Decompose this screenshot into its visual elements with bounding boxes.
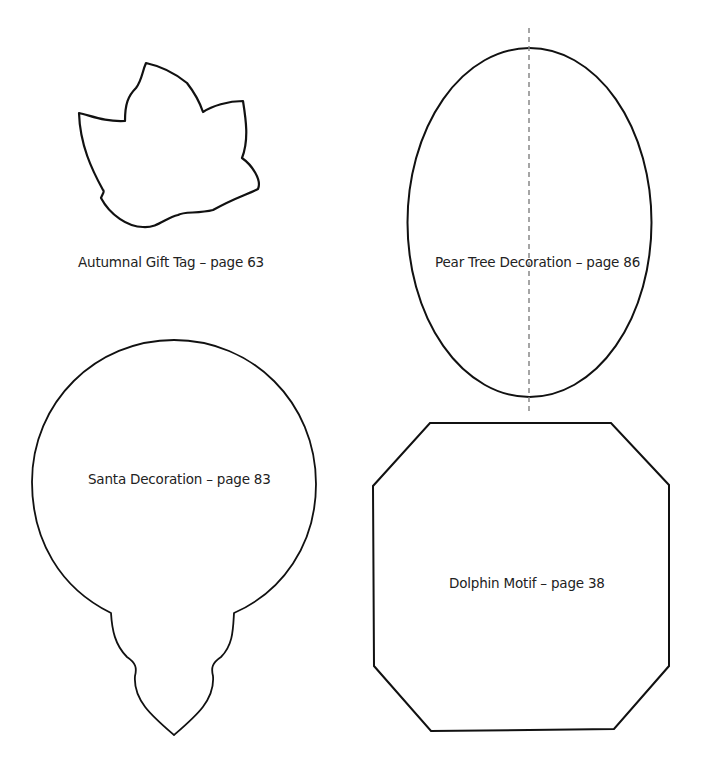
- santa-decoration-label: Santa Decoration – page 83: [88, 471, 271, 487]
- autumnal-gift-tag-label: Autumnal Gift Tag – page 63: [78, 254, 264, 270]
- pear-tree-decoration-label: Pear Tree Decoration – page 86: [435, 254, 640, 270]
- dolphin-motif-label: Dolphin Motif – page 38: [449, 575, 605, 591]
- santa-decoration-shape: [32, 340, 316, 735]
- template-sheet: [0, 0, 704, 773]
- autumnal-gift-tag-shape: [79, 63, 259, 227]
